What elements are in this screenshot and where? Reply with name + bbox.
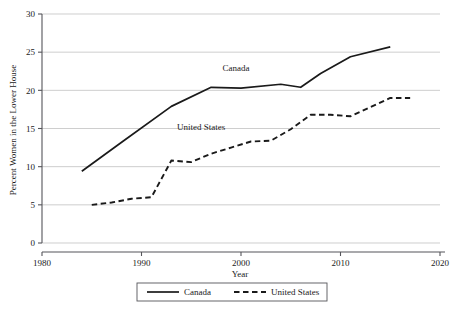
x-axis-tick-label: 2020	[431, 258, 450, 268]
y-axis-tick-label: 30	[26, 9, 36, 19]
legend-label-canada: Canada	[184, 287, 211, 297]
chart-legend: CanadaUnited States	[137, 283, 327, 301]
y-axis-tick-label: 20	[26, 86, 36, 96]
y-axis-tick-label: 0	[31, 238, 36, 248]
annotation-united-states: United States	[177, 122, 226, 132]
y-axis-tick-label: 5	[31, 200, 36, 210]
y-axis-tick-label: 10	[26, 162, 36, 172]
y-axis-title: Percent Women in the Lower House	[8, 65, 18, 195]
y-axis-tick-label: 15	[26, 124, 36, 134]
legend-label-united-states: United States	[271, 287, 320, 297]
x-axis-title: Year	[232, 269, 249, 279]
annotation-canada: Canada	[223, 63, 250, 73]
x-axis-tick-label: 2010	[332, 258, 351, 268]
x-axis-tick-label: 1980	[33, 258, 52, 268]
chart-container: 051015202530 19801990200020102020 Canada…	[0, 0, 453, 309]
chart-background	[0, 0, 453, 309]
line-chart: 051015202530 19801990200020102020 Canada…	[0, 0, 453, 309]
y-axis-tick-label: 25	[26, 47, 36, 57]
x-axis-tick-label: 1990	[133, 258, 152, 268]
x-axis-tick-label: 2000	[232, 258, 251, 268]
